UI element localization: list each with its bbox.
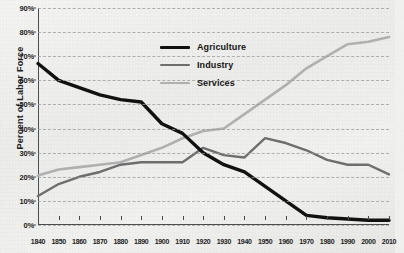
gridline	[38, 129, 389, 130]
y-axis-tick-label: 50%	[0, 100, 34, 109]
x-axis-tick-mark	[389, 216, 390, 220]
y-axis-tick-label: 60%	[0, 76, 34, 85]
y-axis-tick-mark	[32, 200, 36, 201]
x-axis-tick-mark	[348, 216, 349, 220]
plot-area	[38, 8, 389, 225]
y-axis-tick-mark	[32, 225, 36, 226]
y-axis-tick-mark	[32, 128, 36, 129]
x-axis-tick-mark	[327, 216, 328, 220]
gridline	[38, 104, 389, 105]
y-axis-tick-mark	[32, 56, 36, 57]
y-axis-tick-mark	[32, 8, 36, 9]
y-axis-tick-label: 90%	[0, 4, 34, 13]
y-axis-tick-label: 0%	[0, 221, 34, 230]
chart-legend: AgricultureIndustryServices	[160, 42, 246, 88]
line-series-industry	[38, 138, 389, 196]
legend-swatch-icon	[160, 82, 190, 84]
x-axis-tick-mark	[79, 216, 80, 220]
x-axis-tick-mark	[306, 216, 307, 220]
series-lines	[38, 8, 389, 225]
y-axis-tick-mark	[32, 104, 36, 105]
y-axis-tick-mark	[32, 152, 36, 153]
legend-label: Agriculture	[197, 42, 246, 52]
y-axis-tick-label: 70%	[0, 52, 34, 61]
x-axis-tick-mark	[100, 216, 101, 220]
x-axis-tick-mark	[38, 216, 39, 220]
gridline	[38, 177, 389, 178]
y-axis-tick-label: 80%	[0, 28, 34, 37]
legend-swatch-icon	[160, 46, 190, 49]
x-axis-tick-mark	[286, 216, 287, 220]
x-axis-tick-mark	[162, 216, 163, 220]
y-axis-tick-label: 40%	[0, 124, 34, 133]
x-axis-tick-mark	[368, 216, 369, 220]
x-axis-tick-mark	[224, 216, 225, 220]
y-axis-tick-label: 10%	[0, 196, 34, 205]
gridline	[38, 153, 389, 154]
legend-item-industry[interactable]: Industry	[160, 60, 246, 70]
legend-swatch-icon	[160, 64, 190, 66]
x-axis-tick-mark	[141, 216, 142, 220]
y-axis-tick-label: 30%	[0, 148, 34, 157]
gridline	[38, 201, 389, 202]
legend-label: Services	[197, 78, 235, 88]
x-axis-tick-mark	[183, 216, 184, 220]
x-axis-ticks: 1840185018601870188018901900191019201930…	[38, 225, 389, 245]
gridline	[38, 8, 389, 9]
x-axis-tick-mark	[121, 216, 122, 220]
y-axis-tick-mark	[32, 176, 36, 177]
x-axis-tick-mark	[265, 216, 266, 220]
x-axis-tick-mark	[244, 216, 245, 220]
y-axis-tick-mark	[32, 32, 36, 33]
y-axis-ticks: 0%10%20%30%40%50%60%70%80%90%	[0, 0, 36, 253]
y-axis-tick-mark	[32, 80, 36, 81]
y-axis-tick-label: 20%	[0, 172, 34, 181]
legend-label: Industry	[197, 60, 233, 70]
legend-item-services[interactable]: Services	[160, 78, 246, 88]
x-axis-tick-mark	[59, 216, 60, 220]
gridline	[38, 32, 389, 33]
x-axis-tick-mark	[203, 216, 204, 220]
x-axis-tick-label: 2010	[374, 238, 404, 245]
legend-item-agriculture[interactable]: Agriculture	[160, 42, 246, 52]
